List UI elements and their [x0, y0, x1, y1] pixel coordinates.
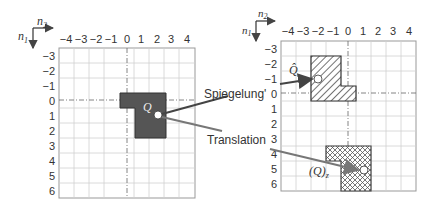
- svg-text:−2: −2: [264, 58, 277, 70]
- svg-text:3: 3: [390, 25, 396, 37]
- svg-text:6: 6: [271, 178, 277, 190]
- axis-indicator-left: n2 n1: [18, 14, 53, 48]
- label-q-hat: Q̂: [289, 63, 298, 77]
- row-ticks-left: −3 −2 −1 0 1 2 3 4 5 6: [42, 50, 55, 197]
- svg-text:−1: −1: [42, 80, 55, 92]
- svg-text:5: 5: [271, 163, 277, 175]
- svg-text:2: 2: [271, 118, 277, 130]
- col-ticks-left: −4 −3 −2 −1 0 1 2 3 4: [60, 33, 190, 45]
- svg-text:−2: −2: [312, 25, 325, 37]
- reflection-label: Spiegelung': [204, 87, 266, 101]
- svg-text:4: 4: [406, 25, 412, 37]
- svg-text:3: 3: [271, 133, 277, 145]
- svg-text:3: 3: [49, 140, 55, 152]
- row-ticks-right: −3 −2 −1 0 1 2 3 4 5 6: [264, 43, 277, 190]
- svg-text:1: 1: [271, 103, 277, 115]
- svg-text:2: 2: [49, 125, 55, 137]
- left-grid: n2 n1 −4 −3 −2 −1 0 1 2 3 4: [18, 14, 195, 198]
- point-q: [154, 111, 162, 119]
- axis-indicator-right: n2 n1: [242, 7, 275, 41]
- svg-text:−1: −1: [264, 73, 277, 85]
- svg-text:−3: −3: [75, 33, 88, 45]
- svg-text:−1: −1: [105, 33, 118, 45]
- svg-text:4: 4: [184, 33, 190, 45]
- svg-text:−3: −3: [264, 43, 277, 55]
- svg-text:n2: n2: [258, 7, 268, 21]
- svg-text:n1: n1: [18, 29, 28, 45]
- svg-text:5: 5: [49, 170, 55, 182]
- svg-text:−3: −3: [42, 50, 55, 62]
- point-q-hat: [314, 75, 322, 83]
- svg-text:0: 0: [345, 25, 351, 37]
- svg-text:−1: −1: [327, 25, 340, 37]
- svg-text:0: 0: [49, 95, 55, 107]
- svg-text:n2: n2: [37, 14, 47, 30]
- translation-label: Translation: [207, 133, 266, 147]
- diagram-canvas: n2 n1 −4 −3 −2 −1 0 1 2 3 4: [0, 0, 435, 206]
- label-q: Q: [143, 100, 152, 114]
- point-q-translated: [360, 166, 368, 174]
- svg-text:1: 1: [138, 33, 144, 45]
- svg-text:1: 1: [49, 110, 55, 122]
- svg-text:2: 2: [375, 25, 381, 37]
- svg-text:−4: −4: [60, 33, 73, 45]
- svg-text:1: 1: [360, 25, 366, 37]
- svg-text:6: 6: [49, 185, 55, 197]
- col-ticks-right: −4 −3 −2 −1 0 1 2 3 4: [282, 25, 412, 37]
- svg-text:0: 0: [271, 88, 277, 100]
- svg-text:4: 4: [49, 155, 55, 167]
- svg-text:0: 0: [124, 33, 130, 45]
- svg-text:−2: −2: [90, 33, 103, 45]
- svg-text:−4: −4: [282, 25, 295, 37]
- svg-text:n1: n1: [242, 24, 252, 38]
- svg-text:−2: −2: [42, 65, 55, 77]
- svg-text:2: 2: [154, 33, 160, 45]
- svg-text:3: 3: [168, 33, 174, 45]
- svg-text:−3: −3: [297, 25, 310, 37]
